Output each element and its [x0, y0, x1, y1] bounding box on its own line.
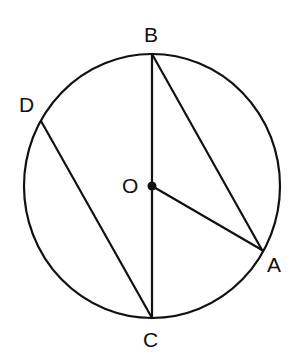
label-d: D: [19, 93, 34, 116]
circle-diagram: B D O A C: [0, 0, 297, 363]
center-point-o: [148, 182, 157, 191]
segment-dc: [41, 121, 152, 318]
label-a: A: [267, 253, 281, 276]
label-c: C: [143, 328, 158, 351]
segment-ba: [152, 54, 262, 250]
label-o: O: [122, 174, 138, 197]
label-b: B: [144, 23, 158, 46]
segment-oa-radius: [152, 186, 262, 250]
